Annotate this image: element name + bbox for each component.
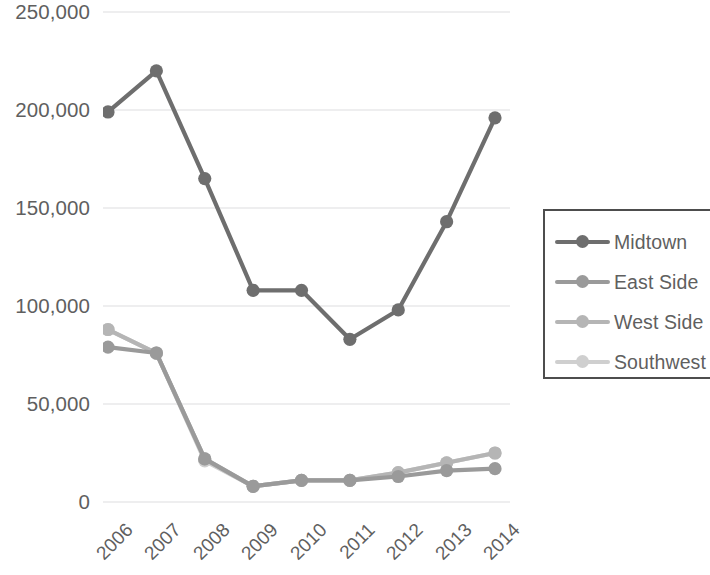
chart-legend: MidtownEast SideWest SideSouthwest [543, 209, 710, 379]
legend-item-midtown: Midtown [555, 222, 710, 262]
y-axis: 250,000200,000150,000100,00050,0000 [0, 0, 98, 575]
data-point [488, 462, 501, 475]
data-point [392, 303, 405, 316]
legend-marker-icon [576, 235, 589, 248]
legend-marker-icon [576, 355, 589, 368]
x-axis: 200620072008200920102011201220132014 [0, 505, 560, 575]
data-point [103, 341, 115, 354]
data-point [343, 474, 356, 487]
data-point [198, 452, 211, 465]
legend-key-icon [555, 353, 610, 371]
legend-item-west-side: West Side [555, 302, 710, 342]
legend-label: Southwest [614, 351, 706, 374]
data-point [440, 464, 453, 477]
legend-label: Midtown [614, 231, 687, 254]
legend-label: West Side [614, 311, 703, 334]
series-midtown [103, 64, 502, 346]
legend-marker-icon [576, 275, 589, 288]
data-point [295, 474, 308, 487]
data-point [150, 64, 163, 77]
data-point [440, 215, 453, 228]
y-tick-label: 250,000 [15, 0, 90, 24]
data-point [150, 346, 163, 359]
data-point [247, 480, 260, 493]
data-point [343, 333, 356, 346]
data-point [488, 111, 501, 124]
plot-svg [103, 0, 510, 510]
series-line [108, 71, 495, 340]
legend-marker-icon [576, 315, 589, 328]
legend-key-icon [555, 273, 610, 291]
y-tick-label: 150,000 [15, 196, 90, 220]
y-tick-label: 200,000 [15, 98, 90, 122]
y-tick-label: 100,000 [15, 294, 90, 318]
legend-label: East Side [614, 271, 698, 294]
series-east-side [103, 341, 502, 493]
legend-item-southwest: Southwest [555, 342, 710, 382]
series-line [108, 330, 495, 487]
data-point [488, 446, 501, 459]
legend-key-icon [555, 313, 610, 331]
legend-item-east-side: East Side [555, 262, 710, 302]
data-point [198, 172, 211, 185]
legend-key-icon [555, 233, 610, 251]
y-tick-label: 50,000 [27, 392, 90, 416]
line-chart: 250,000200,000150,000100,00050,0000 2006… [0, 0, 710, 575]
data-point [392, 470, 405, 483]
data-point [247, 284, 260, 297]
data-point [295, 284, 308, 297]
plot-area [103, 0, 510, 510]
